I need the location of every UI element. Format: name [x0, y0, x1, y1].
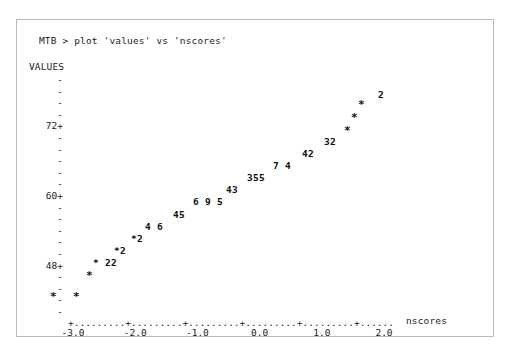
x-axis-tick-label: 1.0 — [307, 328, 337, 338]
x-axis-tick-label: -2.0 — [120, 328, 150, 338]
scatter-marker: * — [50, 292, 57, 302]
minitab-command-line: MTB > plot 'values' vs 'nscores' — [39, 36, 227, 46]
y-axis-minor-tick: - — [29, 133, 63, 143]
y-axis-minor-tick: - — [29, 214, 63, 224]
y-axis-minor-tick: - — [29, 98, 63, 108]
scatter-marker: 2 — [378, 90, 384, 100]
y-axis-major-tick: 48+ — [29, 261, 63, 271]
y-axis-minor-tick: - — [29, 237, 63, 247]
scatter-marker: 7 4 — [273, 161, 291, 171]
scatter-marker: * — [358, 100, 365, 110]
scatter-marker: 43 — [226, 185, 238, 195]
scatter-marker: 42 — [302, 149, 314, 159]
scatter-marker: * — [344, 126, 351, 136]
x-axis-tick-label: -1.0 — [182, 328, 212, 338]
y-axis-minor-tick: - — [29, 110, 63, 120]
y-axis-minor-tick: - — [29, 295, 63, 305]
x-axis-line: +.........+.........+.........+.........… — [68, 317, 394, 328]
y-axis-title: VALUES — [29, 62, 64, 72]
plot-frame: MTB > plot 'values' vs 'nscores' VALUES … — [16, 19, 494, 337]
x-axis-tick-label: -3.0 — [58, 328, 88, 338]
scatter-marker: *2 — [114, 246, 126, 256]
y-axis-minor-tick: - — [29, 307, 63, 317]
y-axis-minor-tick: - — [29, 249, 63, 259]
scatter-marker: *2 — [131, 234, 143, 244]
scatter-marker: 32 — [324, 137, 336, 147]
x-axis-tick-label: 0.0 — [245, 328, 275, 338]
y-axis-minor-tick: - — [29, 75, 63, 85]
y-axis-minor-tick: - — [29, 226, 63, 236]
y-axis-minor-tick: - — [29, 284, 63, 294]
y-axis-minor-tick: - — [29, 168, 63, 178]
plot-canvas: MTB > plot 'values' vs 'nscores' VALUES … — [17, 20, 495, 338]
scatter-marker: * 22 — [93, 258, 117, 268]
scatter-marker: 45 — [173, 210, 185, 220]
x-axis-title: nscores — [406, 316, 447, 326]
x-axis-tick-label: 2.0 — [369, 328, 399, 338]
y-axis-major-tick: 72+ — [29, 121, 63, 131]
screenshot-root: MTB > plot 'values' vs 'nscores' VALUES … — [0, 0, 510, 352]
y-axis-major-tick: 60+ — [29, 191, 63, 201]
scatter-marker: * — [73, 292, 80, 302]
scatter-marker: 355 — [247, 173, 265, 183]
scatter-marker: * — [86, 271, 93, 281]
y-axis-minor-tick: - — [29, 87, 63, 97]
y-axis-minor-tick: - — [29, 272, 63, 282]
y-axis-minor-tick: - — [29, 179, 63, 189]
y-axis-minor-tick: - — [29, 203, 63, 213]
y-axis-minor-tick: - — [29, 156, 63, 166]
scatter-marker: 6 9 5 — [193, 197, 223, 207]
scatter-marker: * — [351, 113, 358, 123]
scatter-marker: 4 6 — [145, 222, 163, 232]
y-axis-minor-tick: - — [29, 145, 63, 155]
